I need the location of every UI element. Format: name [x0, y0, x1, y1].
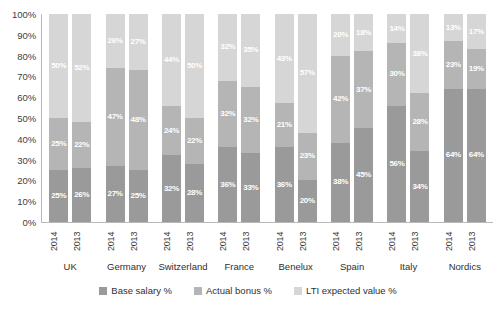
bar-segment-bonus[interactable]: 30%: [387, 43, 406, 105]
y-axis-tick-label: 80%: [17, 50, 36, 61]
legend-item[interactable]: LTI expected value %: [294, 285, 397, 296]
bar-segment-base[interactable]: 36%: [275, 147, 294, 222]
stacked-bar[interactable]: 17%19%64%: [467, 14, 486, 222]
bar-segment-value-label: 23%: [446, 61, 461, 69]
bar-segment-base[interactable]: 32%: [162, 155, 181, 222]
bar-segment-base[interactable]: 36%: [218, 147, 237, 222]
bar-segment-bonus[interactable]: 28%: [410, 93, 429, 151]
bar-segment-lti[interactable]: 18%: [354, 14, 373, 51]
x-axis-year-label: 2014: [218, 224, 237, 258]
bar-segment-bonus[interactable]: 47%: [106, 68, 125, 166]
bar-segment-value-label: 38%: [333, 178, 348, 186]
x-axis-year-row: 20142013: [444, 224, 486, 258]
bar-segment-value-label: 47%: [108, 113, 123, 121]
bar-segment-lti[interactable]: 26%: [106, 14, 125, 68]
bar-segment-base[interactable]: 20%: [298, 180, 317, 222]
bar-segment-bonus[interactable]: 42%: [331, 56, 350, 143]
bar-segment-value-label: 25%: [51, 140, 66, 148]
bar-segment-lti[interactable]: 57%: [298, 14, 317, 133]
bar-segment-value-label: 32%: [164, 185, 179, 193]
bar-segment-bonus[interactable]: 48%: [129, 70, 148, 170]
x-axis-year-label: 2013: [354, 224, 373, 258]
bar-segment-lti[interactable]: 27%: [129, 14, 148, 70]
stacked-bar[interactable]: 43%21%36%: [275, 14, 294, 222]
bar-segment-value-label: 48%: [131, 116, 146, 124]
bar-segment-value-label: 19%: [469, 65, 484, 73]
y-axis-tick-label: 60%: [17, 92, 36, 103]
bar-segment-bonus[interactable]: 22%: [72, 122, 91, 168]
bar-segment-value-label: 32%: [220, 110, 235, 118]
bar-segment-value-label: 13%: [446, 24, 461, 32]
bar-segment-base[interactable]: 34%: [410, 151, 429, 222]
bar-segment-bonus[interactable]: 23%: [298, 133, 317, 181]
bar-segment-bonus[interactable]: 22%: [185, 118, 204, 164]
bar-segment-bonus[interactable]: 23%: [444, 41, 463, 89]
bar-segment-base[interactable]: 38%: [331, 143, 350, 222]
stacked-bar[interactable]: 32%32%36%: [218, 14, 237, 222]
bar-segment-lti[interactable]: 32%: [218, 14, 237, 81]
stacked-bar[interactable]: 26%47%27%: [106, 14, 125, 222]
stacked-bar[interactable]: 52%22%26%: [72, 14, 91, 222]
bar-segment-bonus[interactable]: 24%: [162, 106, 181, 156]
bar-segment-bonus[interactable]: 19%: [467, 49, 486, 89]
x-axis-group: 20142013Spain: [324, 224, 380, 280]
stacked-bar[interactable]: 50%25%25%: [49, 14, 68, 222]
x-axis-year-label: 2013: [241, 224, 260, 258]
y-axis-tick-label: 0%: [22, 217, 36, 228]
x-axis-group: 20142013Benelux: [268, 224, 324, 280]
bar-segment-base[interactable]: 64%: [467, 89, 486, 222]
bar-segment-lti[interactable]: 50%: [49, 14, 68, 118]
bar-segment-bonus[interactable]: 37%: [354, 51, 373, 128]
legend-item[interactable]: Actual bonus %: [194, 285, 272, 296]
bar-segment-bonus[interactable]: 21%: [275, 103, 294, 147]
bar-segment-bonus[interactable]: 32%: [218, 81, 237, 148]
x-axis-line: [41, 222, 493, 223]
bar-segment-lti[interactable]: 38%: [410, 14, 429, 93]
stacked-bar[interactable]: 13%23%64%: [444, 14, 463, 222]
bar-segment-base[interactable]: 64%: [444, 89, 463, 222]
bar-segment-base[interactable]: 26%: [72, 168, 91, 222]
bar-segment-value-label: 28%: [412, 118, 427, 126]
stacked-bar[interactable]: 50%22%28%: [185, 14, 204, 222]
bar-segment-value-label: 24%: [164, 127, 179, 135]
bar-segment-base[interactable]: 27%: [106, 166, 125, 222]
stacked-bar[interactable]: 35%32%33%: [241, 14, 260, 222]
bar-segment-bonus[interactable]: 32%: [241, 87, 260, 154]
plot-area: 50%25%25%52%22%26%26%47%27%27%48%25%44%2…: [42, 14, 493, 222]
bar-segment-lti[interactable]: 44%: [162, 14, 181, 106]
stacked-bar[interactable]: 57%23%20%: [298, 14, 317, 222]
bar-segment-value-label: 57%: [300, 69, 315, 77]
bar-segment-lti[interactable]: 35%: [241, 14, 260, 87]
x-axis: 20142013UK20142013Germany20142013Switzer…: [42, 224, 493, 280]
bar-segment-value-label: 32%: [220, 43, 235, 51]
x-axis-year-label: 2013: [410, 224, 429, 258]
legend-item[interactable]: Base salary %: [99, 285, 172, 296]
bar-segment-value-label: 32%: [243, 116, 258, 124]
bar-group: 32%32%36%35%32%33%: [211, 14, 267, 222]
bar-segment-value-label: 45%: [356, 171, 371, 179]
bar-segment-lti[interactable]: 14%: [387, 14, 406, 43]
bar-segment-lti[interactable]: 43%: [275, 14, 294, 103]
stacked-bar[interactable]: 27%48%25%: [129, 14, 148, 222]
bar-segment-base[interactable]: 33%: [241, 153, 260, 222]
bar-segment-base[interactable]: 25%: [49, 170, 68, 222]
bar-segment-value-label: 22%: [187, 137, 202, 145]
bar-segment-lti[interactable]: 50%: [185, 14, 204, 118]
bar-segment-lti[interactable]: 17%: [467, 14, 486, 49]
x-axis-category-label: Nordics: [449, 261, 481, 272]
bar-segment-bonus[interactable]: 25%: [49, 118, 68, 170]
bar-segment-lti[interactable]: 13%: [444, 14, 463, 41]
bar-segment-value-label: 30%: [389, 70, 404, 78]
bar-segment-lti[interactable]: 52%: [72, 14, 91, 122]
bar-segment-base[interactable]: 25%: [129, 170, 148, 222]
bar-segment-lti[interactable]: 20%: [331, 14, 350, 56]
bar-segment-base[interactable]: 45%: [354, 128, 373, 222]
stacked-bar[interactable]: 20%42%38%: [331, 14, 350, 222]
stacked-bar[interactable]: 38%28%34%: [410, 14, 429, 222]
stacked-bar[interactable]: 44%24%32%: [162, 14, 181, 222]
x-axis-year-label: 2014: [275, 224, 294, 258]
bar-segment-base[interactable]: 28%: [185, 164, 204, 222]
bar-segment-base[interactable]: 56%: [387, 106, 406, 222]
stacked-bar[interactable]: 18%37%45%: [354, 14, 373, 222]
stacked-bar[interactable]: 14%30%56%: [387, 14, 406, 222]
